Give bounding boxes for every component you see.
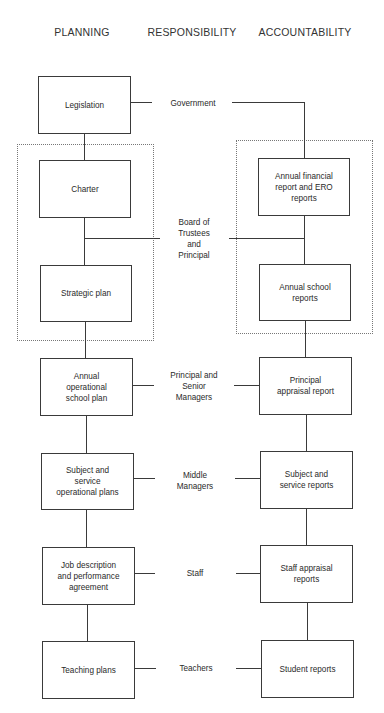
planning-box-job-description: Job description and performance agreemen…	[42, 547, 135, 605]
box-label: Strategic plan	[61, 288, 111, 299]
responsibility-board-of-trustees: Board of Trustees and Principal	[178, 217, 210, 261]
connector-line	[134, 668, 156, 669]
responsibility-government: Government	[170, 98, 215, 109]
box-label: Principal appraisal report	[277, 375, 334, 397]
connector-line	[84, 133, 85, 160]
box-label: Subject and service operational plans	[56, 465, 118, 498]
connector-line	[86, 509, 87, 547]
connector-line	[87, 604, 88, 641]
connector-line	[305, 320, 306, 357]
planning-box-charter: Charter	[39, 160, 131, 218]
accountability-box-subject-service-reports: Subject and service reports	[260, 451, 353, 509]
column-header-planning: PLANNING	[54, 26, 109, 38]
accountability-box-annual-school-reports: Annual school reports	[259, 264, 351, 321]
connector-line	[306, 508, 307, 545]
connector-line	[234, 385, 259, 386]
connector-line	[235, 478, 260, 479]
planning-box-legislation: Legislation	[38, 76, 131, 134]
planning-box-subject-service-plans: Subject and service operational plans	[41, 453, 134, 510]
connector-line	[304, 215, 305, 264]
responsibility-senior-managers: Principal and Senior Managers	[170, 370, 217, 403]
connector-line	[86, 415, 87, 453]
connector-line	[85, 321, 86, 358]
connector-line	[232, 102, 304, 103]
connector-line	[229, 238, 305, 239]
responsibility-middle-managers: Middle Managers	[177, 470, 213, 492]
connector-line	[304, 102, 305, 158]
box-label: Legislation	[65, 100, 104, 111]
connector-line	[133, 573, 155, 574]
planning-box-strategic-plan: Strategic plan	[40, 265, 132, 322]
box-label: Job description and performance agreemen…	[58, 560, 120, 593]
accountability-box-principal-appraisal: Principal appraisal report	[259, 357, 352, 415]
box-label: Staff appraisal reports	[280, 563, 332, 585]
connector-line	[307, 602, 308, 640]
connector-line	[84, 238, 160, 239]
connector-line	[133, 478, 155, 479]
accountability-box-student-reports: Student reports	[261, 640, 354, 698]
figure-caption	[6, 704, 206, 713]
accountability-box-financial-ero-reports: Annual financial report and ERO reports	[258, 158, 350, 216]
connector-line	[306, 414, 307, 451]
connector-line	[84, 217, 85, 265]
responsibility-teachers: Teachers	[179, 663, 212, 674]
box-label: Subject and service reports	[280, 469, 334, 491]
box-label: Annual operational school plan	[66, 371, 107, 404]
box-label: Annual financial report and ERO reports	[275, 171, 333, 204]
planning-box-annual-operational-plan: Annual operational school plan	[40, 358, 133, 416]
connector-line	[236, 668, 261, 669]
column-header-accountability: ACCOUNTABILITY	[258, 26, 351, 38]
responsibility-staff: Staff	[187, 568, 204, 579]
box-label: Annual school reports	[279, 282, 330, 304]
connector-line	[236, 573, 261, 574]
column-header-responsibility: RESPONSIBILITY	[147, 26, 236, 38]
box-label: Charter	[71, 184, 98, 195]
box-label: Teaching plans	[61, 665, 116, 676]
planning-box-teaching-plans: Teaching plans	[42, 641, 135, 699]
connector-line	[132, 385, 154, 386]
connector-line	[130, 102, 152, 103]
box-label: Student reports	[280, 664, 336, 675]
accountability-box-staff-appraisal: Staff appraisal reports	[260, 545, 353, 603]
